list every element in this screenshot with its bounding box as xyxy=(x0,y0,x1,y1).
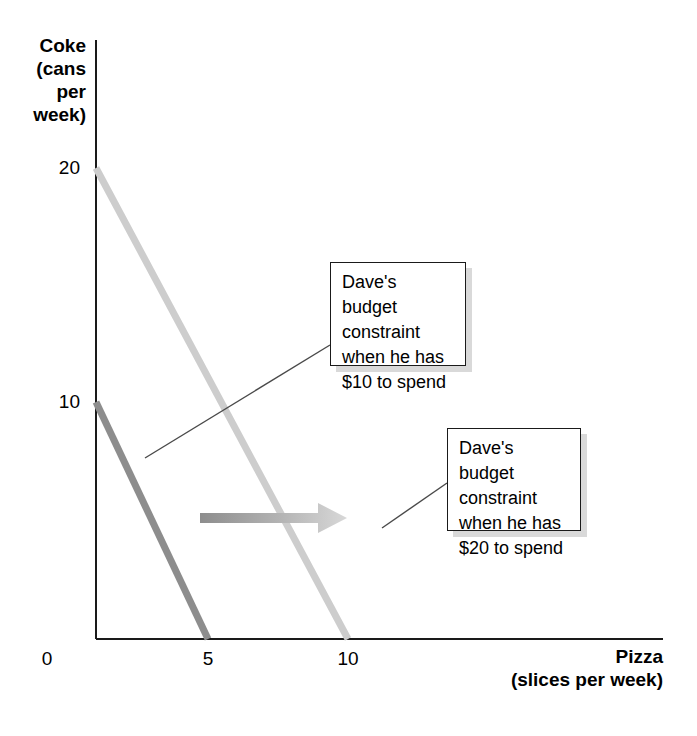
y-axis-units-line3: week) xyxy=(33,104,86,125)
leader-line-budget-20 xyxy=(382,483,447,528)
shift-arrow-icon xyxy=(200,503,347,533)
budget-line-20 xyxy=(96,168,348,639)
y-tick-label-10: 10 xyxy=(24,391,80,413)
x-tick-label-10: 10 xyxy=(329,648,367,670)
callout-budget-20: Dave's budget constraint when he has $20… xyxy=(447,428,581,531)
x-axis-title: Pizza(slices per week) xyxy=(393,645,663,691)
chart-canvas: Coke(cansperweek) Pizza(slices per week)… xyxy=(0,0,697,736)
x-tick-label-0: 0 xyxy=(33,648,61,670)
x-axis-title-text: Pizza xyxy=(615,646,663,667)
callout-budget-10: Dave's budget constraint when he has $10… xyxy=(330,262,466,366)
y-axis-units-line2: per xyxy=(56,81,86,102)
y-axis-units-line1: (cans xyxy=(36,58,86,79)
x-axis-units: (slices per week) xyxy=(511,669,663,690)
x-tick-label-5: 5 xyxy=(194,648,222,670)
y-axis-title-text: Coke xyxy=(40,35,86,56)
y-tick-label-20: 20 xyxy=(24,157,80,179)
y-axis-title: Coke(cansperweek) xyxy=(0,34,86,126)
leader-line-budget-10 xyxy=(145,345,330,458)
budget-line-10 xyxy=(96,402,208,639)
